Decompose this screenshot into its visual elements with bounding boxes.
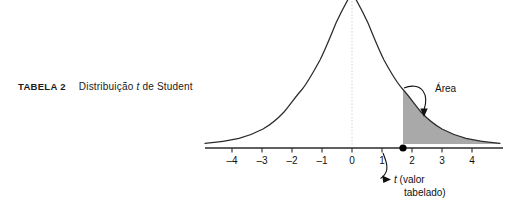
- t-value-annotation-line1: t (valor: [394, 174, 425, 185]
- x-axis-ticks: [232, 148, 472, 153]
- x-tick-label: 4: [469, 155, 475, 166]
- x-tick-label: 2: [409, 155, 415, 166]
- x-tick-label: 0: [349, 155, 355, 166]
- x-tick-label: –4: [226, 155, 238, 166]
- x-tick-label: –3: [256, 155, 268, 166]
- t-distribution-chart: –4 –3 –2 –1 0 1 2 3 4 Área t (valor: [0, 0, 515, 206]
- x-tick-label: –1: [316, 155, 328, 166]
- figure-container: TABELA 2Distribuição t de Student: [0, 0, 515, 206]
- x-axis-tick-labels: –4 –3 –2 –1 0 1 2 3 4: [226, 155, 475, 166]
- t-value-marker-dot: [399, 144, 406, 151]
- area-annotation-label: Área: [435, 82, 457, 94]
- t-value-annotation-line2: tabelado): [404, 187, 446, 198]
- x-tick-label: –2: [286, 155, 298, 166]
- x-tick-label: 3: [439, 155, 445, 166]
- t-value-annotation-rest: (valor: [397, 174, 425, 185]
- t-value-annotation-arrowhead: [382, 176, 391, 184]
- shaded-area-region: [403, 90, 500, 145]
